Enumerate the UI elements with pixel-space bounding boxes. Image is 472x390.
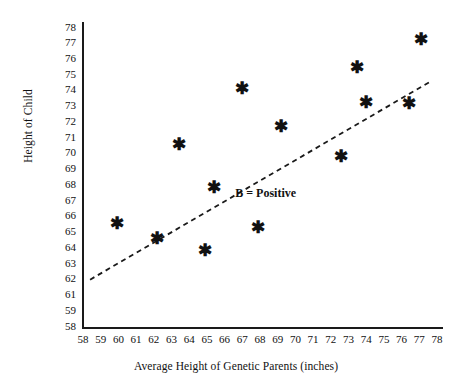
data-point: ✱ [207, 178, 221, 195]
data-point: ✱ [251, 219, 265, 236]
y-tick-label: 78 [50, 22, 76, 33]
data-point: ✱ [350, 59, 364, 76]
data-point: ✱ [235, 80, 249, 97]
y-tick-label: 58 [50, 321, 76, 332]
data-point: ✱ [198, 241, 212, 258]
data-point: ✱ [110, 214, 124, 231]
y-tick-label: 67 [50, 195, 76, 206]
data-point: ✱ [402, 95, 416, 112]
y-tick-label: 62 [50, 273, 76, 284]
y-tick-label: 73 [50, 100, 76, 111]
y-tick-label: 66 [50, 210, 76, 221]
y-axis-title: Height of Child [22, 56, 34, 196]
y-tick-label: 71 [50, 132, 76, 143]
y-tick-label: 65 [50, 226, 76, 237]
x-axis-line [82, 327, 443, 329]
x-axis-tick-labels: 5859606162636465666768697071727374757677… [0, 334, 472, 350]
x-axis-title: Average Height of Genetic Parents (inche… [0, 360, 472, 372]
data-point: ✱ [414, 30, 428, 47]
y-tick-label: 70 [50, 147, 76, 158]
y-axis-tick-labels: 7877767574737271706968676665646362615958 [42, 0, 76, 390]
chart-annotation: B = Positive [235, 186, 296, 201]
y-tick-label: 64 [50, 242, 76, 253]
x-tick-label: 78 [426, 334, 448, 345]
y-tick-label: 77 [50, 37, 76, 48]
data-point: ✱ [359, 93, 373, 110]
data-point: ✱ [172, 135, 186, 152]
y-tick-label: 69 [50, 163, 76, 174]
y-tick-label: 74 [50, 84, 76, 95]
scatter-plot: Height of Child 787776757473727170696867… [0, 0, 472, 390]
y-tick-label: 63 [50, 258, 76, 269]
y-axis-line [82, 22, 84, 328]
y-tick-label: 75 [50, 69, 76, 80]
data-point: ✱ [274, 117, 288, 134]
data-point: ✱ [150, 229, 164, 246]
data-point: ✱ [334, 147, 348, 164]
y-tick-label: 68 [50, 179, 76, 190]
y-tick-label: 72 [50, 116, 76, 127]
y-tick-label: 76 [50, 53, 76, 64]
y-tick-label: 59 [50, 305, 76, 316]
y-tick-label: 61 [50, 289, 76, 300]
